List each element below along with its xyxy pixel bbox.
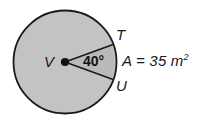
vertex-label-v: V xyxy=(44,54,54,69)
central-angle-label: 40° xyxy=(83,54,104,68)
point-label-t: T xyxy=(116,27,125,42)
vertex-dot-V xyxy=(61,58,69,66)
point-label-u: U xyxy=(116,78,127,93)
area-annotation-text: A = 35 m xyxy=(122,52,184,69)
area-annotation: A = 35 m2 xyxy=(122,53,189,68)
area-exponent: 2 xyxy=(184,52,189,62)
